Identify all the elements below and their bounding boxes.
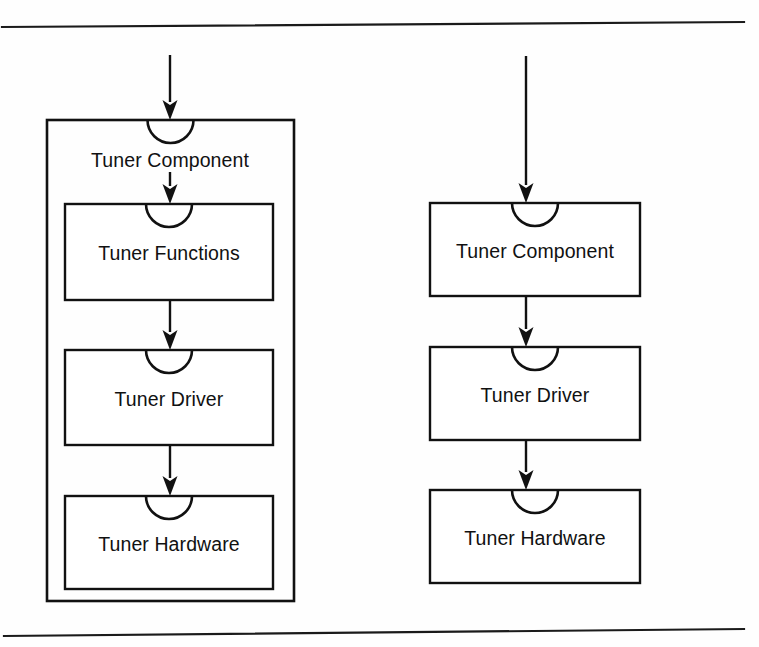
flow-arrow-head-tuner-functions-to-tuner-driver <box>163 330 178 350</box>
flow-arrow-head-tuner-driver-to-tuner-hardware <box>163 476 178 496</box>
left-diagram: Tuner ComponentTuner FunctionsTuner Driv… <box>47 55 294 601</box>
socket-interface-icon-tuner-component <box>148 120 194 143</box>
component-box-label-tuner-hardware: Tuner Hardware <box>98 533 240 555</box>
component-box-tuner-driver[interactable]: Tuner Driver <box>430 347 640 440</box>
nested-variant-group: Tuner ComponentTuner FunctionsTuner Driv… <box>47 55 294 601</box>
flow-arrow-head-tuner-driver-to-tuner-hardware <box>519 470 534 490</box>
component-box-label-tuner-functions: Tuner Functions <box>98 242 240 264</box>
component-box-tuner-functions[interactable]: Tuner Functions <box>65 204 273 300</box>
component-box-label-tuner-driver: Tuner Driver <box>115 388 224 410</box>
top-horizontal-rule <box>2 22 744 27</box>
component-box-label-tuner-component: Tuner Component <box>456 240 614 262</box>
container-label-tuner-component: Tuner Component <box>91 149 249 171</box>
component-box-tuner-hardware[interactable]: Tuner Hardware <box>430 490 640 583</box>
component-box-tuner-component[interactable]: Tuner Component <box>430 203 640 296</box>
component-box-tuner-hardware[interactable]: Tuner Hardware <box>65 496 273 589</box>
flow-arrow-head-flat-variant-entry <box>519 183 534 203</box>
flow-arrow-head-tuner-component-to-tuner-driver <box>519 327 534 347</box>
flow-arrow-head-nested-variant-entry <box>163 100 178 120</box>
component-box-tuner-driver[interactable]: Tuner Driver <box>65 350 273 445</box>
diagram-page: Tuner ComponentTuner FunctionsTuner Driv… <box>0 0 759 647</box>
diagram-canvas: Tuner ComponentTuner FunctionsTuner Driv… <box>0 0 759 647</box>
component-box-label-tuner-hardware: Tuner Hardware <box>464 527 606 549</box>
flat-variant-group: Tuner ComponentTuner DriverTuner Hardwar… <box>430 56 640 583</box>
component-box-label-tuner-driver: Tuner Driver <box>481 384 590 406</box>
flow-arrow-head-tuner-component-to-tuner-functions <box>163 184 178 204</box>
bottom-horizontal-rule <box>4 629 744 636</box>
right-diagram: Tuner ComponentTuner DriverTuner Hardwar… <box>430 56 640 583</box>
